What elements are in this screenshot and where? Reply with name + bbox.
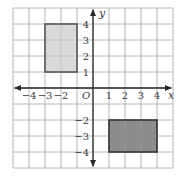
x-tick-label: −4	[22, 90, 37, 101]
y-axis-label: y	[98, 7, 106, 20]
x-tick-label: −3	[38, 90, 53, 101]
x-tick-label: 1	[106, 90, 112, 101]
y-axis-up-arrow-icon	[90, 9, 96, 16]
y-tick-label: 4	[83, 19, 89, 30]
y-tick-label: −4	[74, 147, 89, 158]
x-tick-label: 4	[154, 90, 160, 101]
coordinate-grid-figure: −4−3−212344321−2−3−4Oxy	[0, 0, 180, 182]
y-axis-down-arrow-icon	[90, 160, 96, 167]
x-tick-label: 2	[122, 90, 128, 101]
x-tick-label: 3	[138, 90, 144, 101]
x-tick-label: −2	[54, 90, 69, 101]
x-axis-left-arrow-icon	[14, 85, 21, 91]
origin-label: O	[82, 90, 90, 101]
y-tick-label: −2	[74, 115, 89, 126]
y-tick-label: 2	[83, 51, 89, 62]
y-tick-label: 3	[83, 35, 89, 46]
x-axis-label: x	[168, 89, 175, 102]
y-tick-label: −3	[74, 131, 89, 142]
y-tick-label: 1	[83, 67, 89, 78]
coordinate-plane: −4−3−212344321−2−3−4Oxy	[0, 0, 180, 182]
